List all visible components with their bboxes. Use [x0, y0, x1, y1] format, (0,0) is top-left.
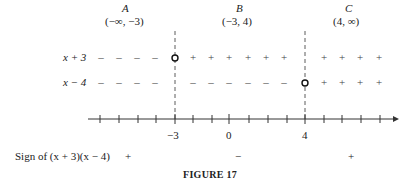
svg-text:+: +: [226, 51, 232, 63]
svg-text:–: –: [225, 76, 232, 88]
svg-text:–: –: [244, 76, 251, 88]
svg-text:–: –: [151, 51, 158, 63]
svg-text:–: –: [115, 51, 122, 63]
svg-text:–: –: [280, 76, 287, 88]
zero-marker-neg3: [172, 55, 178, 61]
svg-text:+: +: [190, 51, 196, 63]
sign-row-label: Sign of (x + 3)(x − 4): [15, 150, 110, 162]
svg-text:–: –: [97, 51, 104, 63]
svg-text:–: –: [151, 76, 158, 88]
factor-label-x-minus-4: x − 4: [63, 76, 86, 88]
svg-text:+: +: [263, 51, 269, 63]
figure-caption: FIGURE 17: [183, 169, 237, 180]
svg-text:–: –: [207, 76, 214, 88]
row-x-plus-3-signs: –––– ++++++ ++++: [97, 51, 382, 63]
svg-text:+: +: [357, 51, 363, 63]
svg-text:–: –: [133, 51, 140, 63]
interval-a-name: A: [122, 2, 129, 14]
factor-label-x-plus-3: x + 3: [63, 51, 86, 63]
sign-a: +: [125, 150, 131, 162]
svg-text:+: +: [281, 51, 287, 63]
svg-text:–: –: [189, 76, 196, 88]
sign-b: −: [235, 150, 241, 162]
zero-marker-4: [302, 80, 308, 86]
svg-text:+: +: [245, 51, 251, 63]
svg-text:+: +: [208, 51, 214, 63]
arrow-head-icon: [393, 116, 399, 122]
tick-label-0: 0: [226, 129, 232, 141]
interval-b-range: (−3, 4): [222, 15, 252, 27]
tick-label-4: 4: [302, 129, 308, 141]
tick-label-neg3: −3: [167, 129, 179, 141]
interval-c-range: (4, ∞): [333, 15, 359, 27]
svg-text:–: –: [133, 76, 140, 88]
interval-b-name: B: [236, 2, 243, 14]
svg-text:–: –: [97, 76, 104, 88]
svg-text:+: +: [321, 51, 327, 63]
svg-text:+: +: [321, 76, 327, 88]
interval-c-name: C: [345, 2, 352, 14]
interval-a-range: (−∞, −3): [105, 15, 144, 27]
svg-text:–: –: [262, 76, 269, 88]
svg-text:+: +: [339, 76, 345, 88]
svg-text:+: +: [339, 51, 345, 63]
svg-text:+: +: [376, 51, 382, 63]
row-x-minus-4-signs: –––– –––––– ++++: [97, 76, 382, 88]
svg-text:+: +: [357, 76, 363, 88]
svg-text:+: +: [376, 76, 382, 88]
svg-text:–: –: [115, 76, 122, 88]
sign-c: +: [348, 150, 354, 162]
